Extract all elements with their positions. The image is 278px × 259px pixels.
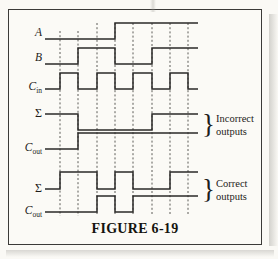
waveform-A [45, 23, 198, 39]
figure-caption: FIGURE 6-19 [8, 221, 262, 237]
signal-label-cout-incorrect: Cout [9, 141, 42, 156]
figure-page: A B Cin Σ Cout Σ Cout } Incorrect output… [0, 0, 278, 259]
gridline-group [60, 23, 188, 216]
group-label-correct: Correct outputs [216, 178, 248, 204]
brace-incorrect: } [202, 111, 215, 138]
signal-label-A: A [20, 26, 42, 38]
waveform-sum-correct [45, 172, 198, 189]
timing-diagram: A B Cin Σ Cout Σ Cout } Incorrect output… [8, 9, 262, 245]
signal-label-sum-correct: Σ [20, 181, 42, 196]
brace-correct: } [202, 176, 215, 203]
waveform-sum-incorrect [45, 114, 198, 130]
signal-label-sum-incorrect: Σ [20, 106, 42, 121]
signal-label-cout-correct: Cout [9, 204, 42, 219]
signal-label-A-text: A [35, 26, 42, 38]
signal-label-cout-correct-subscript: out [32, 210, 42, 219]
signal-label-B-text: B [35, 51, 42, 63]
group-label-incorrect: Incorrect outputs [216, 113, 254, 139]
signal-label-sum-incorrect-text: Σ [35, 106, 42, 120]
brace-correct-glyph: } [202, 174, 215, 204]
waveform-B [45, 48, 198, 64]
signal-label-cout-incorrect-subscript: out [32, 147, 42, 156]
signal-label-B: B [20, 51, 42, 63]
scan-edge-right [269, 14, 278, 246]
signal-label-C-in-subscript: in [36, 86, 42, 95]
group-label-correct-line1: Correct [216, 178, 248, 191]
waveform-C-in [45, 73, 198, 89]
signal-label-sum-correct-text: Σ [35, 181, 42, 195]
brace-incorrect-glyph: } [202, 109, 215, 139]
group-label-incorrect-line1: Incorrect [216, 113, 254, 126]
waveform-cout-correct [45, 196, 198, 212]
scan-edge-bottom [6, 250, 274, 257]
signal-label-C-in-text: C [28, 80, 36, 92]
group-label-correct-line2: outputs [216, 191, 248, 204]
waveform-cout-incorrect [45, 133, 198, 149]
signal-label-C-in: Cin [12, 80, 42, 95]
group-label-incorrect-line2: outputs [216, 126, 254, 139]
scan-crease [150, 0, 156, 12]
